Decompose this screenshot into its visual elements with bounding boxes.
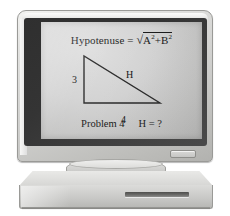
triangle-svg (81, 54, 163, 106)
problem-number-label: Problem 4 (81, 118, 124, 129)
triangle-outline (84, 56, 160, 103)
monitor-bezel: Hypotenuse = √A2+B2 3 4 H (24, 18, 207, 146)
problem-footer: Problem 4H = ? (41, 118, 202, 129)
screen-content: Hypotenuse = √A2+B2 3 4 H (41, 22, 202, 139)
question-label: H = ? (139, 118, 162, 129)
illustration-scene: Hypotenuse = √A2+B2 3 4 H (0, 0, 230, 216)
drop-shadow (22, 207, 210, 210)
radicand-a: A (143, 34, 151, 46)
pedestal-top-disc (69, 159, 163, 169)
base-drive-slot[interactable] (125, 192, 189, 197)
radicand-b-exponent: 2 (169, 33, 173, 41)
base-top-surface (19, 171, 213, 186)
monitor-screen: Hypotenuse = √A2+B2 3 4 H (41, 22, 202, 139)
monitor-case: Hypotenuse = √A2+B2 3 4 H (17, 10, 213, 162)
formula-lead: Hypotenuse = (71, 34, 134, 46)
monitor-power-button[interactable] (170, 150, 196, 158)
radical-overbar (143, 32, 172, 33)
base-front-highlight (21, 186, 71, 207)
right-triangle-diagram (81, 54, 163, 106)
base-front-panel (19, 185, 213, 209)
formula-line: Hypotenuse = √A2+B2 (41, 32, 202, 48)
radicand-b: B (161, 34, 168, 46)
leg-a-label: 3 (72, 74, 77, 85)
radical-expression: √A2+B2 (136, 32, 172, 48)
hypotenuse-label: H (126, 69, 133, 80)
